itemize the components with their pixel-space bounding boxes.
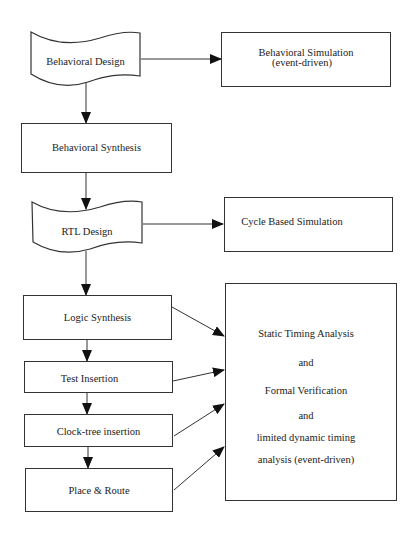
verification-box: Static Timing Analysis and Formal Verifi… — [225, 283, 397, 501]
verification-line-2: and — [226, 357, 386, 369]
verification-line-3: Formal Verification — [226, 385, 386, 397]
behavioral-simulation-sublabel: (event-driven) — [218, 57, 386, 68]
behavioral-synthesis-label: Behavioral Synthesis — [22, 142, 171, 154]
behavioral-simulation-box: Behavioral Simulation (event-driven) — [221, 32, 391, 87]
verification-line-5: limited dynamic timing — [226, 432, 386, 444]
behavioral-design-label: Behavioral Design — [31, 56, 140, 68]
arrow-logic-to-verification — [172, 307, 224, 336]
verification-line-6: analysis (event-driven) — [226, 454, 386, 466]
cycle-based-simulation-label: Cycle Based Simulation — [225, 216, 359, 228]
behavioral-synthesis-box: Behavioral Synthesis — [21, 123, 172, 173]
verification-line-1: Static Timing Analysis — [226, 328, 386, 340]
verification-line-4: and — [226, 410, 386, 422]
logic-synthesis-label: Logic Synthesis — [24, 312, 171, 324]
test-insertion-label: Test Insertion — [25, 373, 154, 385]
place-route-label: Place & Route — [26, 485, 172, 497]
place-route-box: Place & Route — [25, 468, 173, 512]
clock-tree-insertion-box: Clock-tree insertion — [24, 414, 173, 447]
logic-synthesis-box: Logic Synthesis — [23, 295, 172, 340]
clock-tree-insertion-label: Clock-tree insertion — [25, 426, 172, 438]
rtl-design-label: RTL Design — [32, 226, 142, 238]
arrow-place-route-to-verification — [174, 447, 224, 490]
arrow-clock-to-verification — [174, 404, 224, 436]
arrow-test-to-verification — [173, 370, 224, 381]
cycle-based-simulation-box: Cycle Based Simulation — [224, 197, 393, 252]
test-insertion-box: Test Insertion — [24, 361, 173, 393]
